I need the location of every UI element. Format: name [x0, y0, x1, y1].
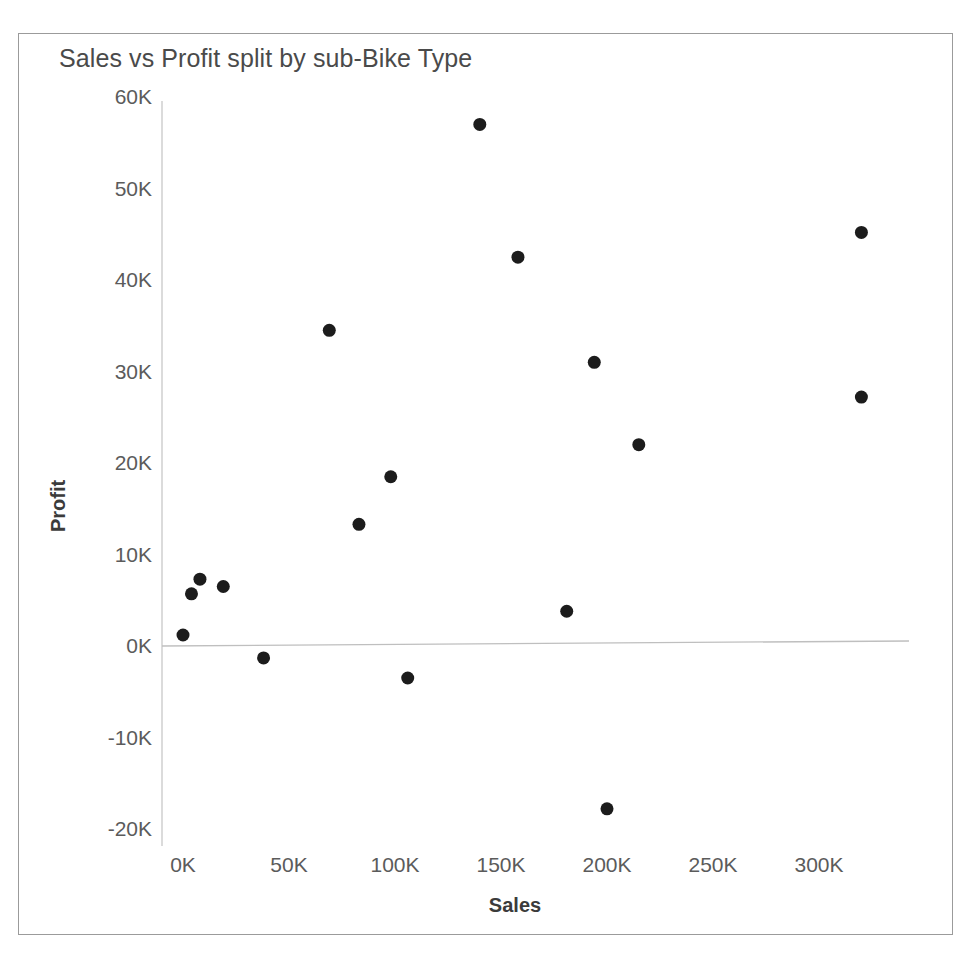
- data-point[interactable]: [177, 629, 190, 642]
- y-tick-label: 10K: [115, 543, 152, 566]
- data-point[interactable]: [473, 118, 486, 131]
- x-tick-label: 100K: [370, 853, 419, 876]
- data-point[interactable]: [855, 226, 868, 239]
- data-point-marks[interactable]: [177, 118, 868, 815]
- x-tick-label: 200K: [582, 853, 631, 876]
- data-point[interactable]: [323, 324, 336, 337]
- data-point[interactable]: [257, 651, 270, 664]
- x-tick-label: 250K: [688, 853, 737, 876]
- data-point[interactable]: [185, 587, 198, 600]
- data-point[interactable]: [352, 518, 365, 531]
- y-tick-label: 60K: [115, 85, 152, 108]
- data-point[interactable]: [217, 580, 230, 593]
- y-axis-title: Profit: [47, 480, 69, 533]
- x-tick-label: 0K: [170, 853, 196, 876]
- data-point[interactable]: [588, 356, 601, 369]
- scatter-plot-area[interactable]: -20K-10K0K10K20K30K40K50K60K 0K50K100K15…: [19, 34, 954, 936]
- y-tick-label: 50K: [115, 177, 152, 200]
- data-point[interactable]: [384, 470, 397, 483]
- data-point[interactable]: [855, 391, 868, 404]
- y-tick-label: 30K: [115, 360, 152, 383]
- y-tick-label: 20K: [115, 451, 152, 474]
- y-tick-label: -20K: [108, 817, 152, 840]
- data-point[interactable]: [601, 802, 614, 815]
- data-point[interactable]: [401, 672, 414, 685]
- data-point[interactable]: [511, 251, 524, 264]
- data-point[interactable]: [193, 573, 206, 586]
- scatter-chart-svg[interactable]: -20K-10K0K10K20K30K40K50K60K 0K50K100K15…: [19, 34, 954, 936]
- data-point[interactable]: [560, 605, 573, 618]
- x-tick-label: 300K: [794, 853, 843, 876]
- x-tick-label: 50K: [270, 853, 307, 876]
- x-axis-title: Sales: [489, 894, 541, 916]
- y-axis-tick-labels: -20K-10K0K10K20K30K40K50K60K: [108, 85, 152, 840]
- y-tick-label: -10K: [108, 726, 152, 749]
- y-tick-label: 40K: [115, 268, 152, 291]
- data-point[interactable]: [632, 438, 645, 451]
- x-tick-label: 150K: [476, 853, 525, 876]
- chart-frame: Sales vs Profit split by sub-Bike Type -…: [18, 33, 953, 935]
- zero-reference-line: [162, 641, 909, 646]
- y-tick-label: 0K: [126, 634, 152, 657]
- x-axis-tick-labels: 0K50K100K150K200K250K300K: [170, 853, 843, 876]
